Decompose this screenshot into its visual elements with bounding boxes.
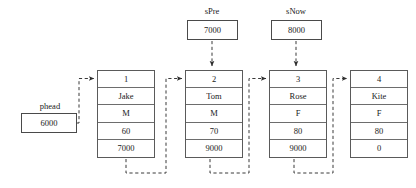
node-3-id: 3 — [270, 71, 326, 88]
node-4-next: 0 — [351, 140, 407, 157]
pointer-label-spre: sPre — [182, 6, 242, 16]
list-node-1: 1 Jake M 60 7000 — [97, 70, 155, 158]
node-2-score: 70 — [186, 123, 242, 140]
node-3-name: Rose — [270, 88, 326, 105]
node-3-next: 9000 — [270, 140, 326, 157]
node-3-score: 80 — [270, 123, 326, 140]
node-2-gender: M — [186, 105, 242, 122]
pointer-box-spre: 7000 — [187, 20, 238, 40]
node-2-next: 9000 — [186, 140, 242, 157]
pointer-box-snow: 8000 — [271, 20, 322, 40]
node-2-name: Tom — [186, 88, 242, 105]
node-2-id: 2 — [186, 71, 242, 88]
node-4-name: Kite — [351, 88, 407, 105]
node-1-gender: M — [98, 105, 154, 122]
linked-list-diagram: phead 6000 sPre 7000 sNow 8000 1 Jake M … — [0, 0, 416, 188]
node-1-name: Jake — [98, 88, 154, 105]
node-4-id: 4 — [351, 71, 407, 88]
pointer-label-phead: phead — [20, 101, 80, 111]
node-1-next: 7000 — [98, 140, 154, 157]
node-1-score: 60 — [98, 123, 154, 140]
node-1-id: 1 — [98, 71, 154, 88]
list-node-3: 3 Rose F 80 9000 — [269, 70, 327, 158]
node-3-gender: F — [270, 105, 326, 122]
node-4-score: 80 — [351, 123, 407, 140]
pointer-box-phead: 6000 — [21, 113, 77, 133]
list-node-2: 2 Tom M 70 9000 — [185, 70, 243, 158]
list-node-4: 4 Kite F 80 0 — [350, 70, 408, 158]
node-4-gender: F — [351, 105, 407, 122]
pointer-label-snow: sNow — [266, 6, 326, 16]
